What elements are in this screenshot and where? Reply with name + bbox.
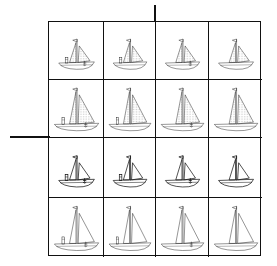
boat-cell	[104, 138, 156, 198]
sailboat-icon	[209, 80, 262, 137]
boat-cell	[156, 22, 209, 80]
boat-cell	[156, 80, 209, 138]
sailboat-icon	[156, 80, 208, 137]
boat-cell	[104, 22, 156, 80]
boat-cell	[156, 138, 209, 198]
sailboat-icon	[104, 80, 155, 137]
boat-cell	[209, 22, 262, 80]
boat-cell	[49, 22, 104, 80]
sailboat-icon	[49, 138, 103, 197]
boat-cell	[104, 80, 156, 138]
sailboat-icon	[104, 22, 155, 79]
boat-cell	[209, 198, 262, 257]
boat-cell	[49, 198, 104, 257]
sailboat-icon	[209, 138, 262, 197]
sailboat-icon	[49, 198, 103, 257]
sailboat-icon	[209, 198, 262, 257]
boat-grid	[48, 21, 261, 256]
sailboat-icon	[156, 198, 208, 257]
horizontal-axis-line	[10, 136, 50, 138]
vertical-axis-line	[154, 5, 156, 22]
sailboat-icon	[209, 22, 262, 79]
boat-cell	[209, 80, 262, 138]
sailboat-icon	[156, 22, 208, 79]
sailboat-icon	[156, 138, 208, 197]
boat-cell	[104, 198, 156, 257]
sailboat-icon	[49, 80, 103, 137]
sailboat-icon	[104, 198, 155, 257]
boat-cell	[49, 138, 104, 198]
sailboat-icon	[49, 22, 103, 79]
boat-cell	[156, 198, 209, 257]
boat-cell	[49, 80, 104, 138]
boat-cell	[209, 138, 262, 198]
sailboat-icon	[104, 138, 155, 197]
